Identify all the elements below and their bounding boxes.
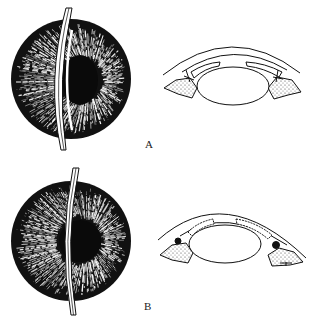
ciliary-left-b: [160, 243, 193, 263]
panel-b-cross-section: [158, 214, 306, 266]
suture-knot-left-b: [175, 238, 181, 244]
lens-a: [197, 67, 269, 105]
suture-knot-right-b: [273, 242, 280, 249]
panel-label-a: A: [145, 138, 153, 150]
panel-b-front-view: [11, 168, 131, 315]
panel-a-cross-section: [163, 47, 301, 105]
eye-surgery-figure: A B: [0, 0, 318, 321]
panel-label-b: B: [144, 300, 151, 312]
ciliary-right-a: [268, 77, 301, 99]
panel-a-front-view: [11, 8, 131, 150]
ciliary-left-a: [164, 78, 197, 98]
lens-b: [189, 225, 261, 263]
